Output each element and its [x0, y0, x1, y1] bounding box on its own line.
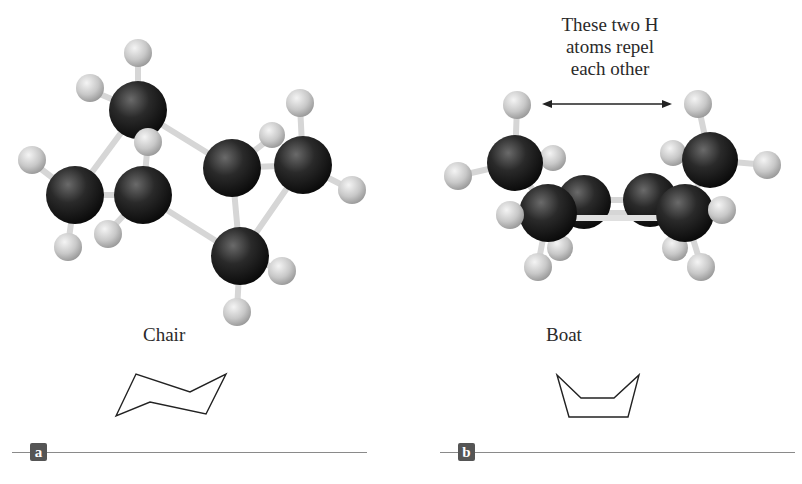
boat-caption: Boat [546, 324, 582, 346]
boat-molecule [444, 90, 781, 281]
repel-double-arrow [542, 100, 672, 108]
chair-conformation-drawing [116, 374, 226, 416]
repel-annotation: These two H atoms repel each other [535, 14, 685, 80]
annotation-line-3: each other [535, 58, 685, 80]
panel-label-a: a [30, 443, 47, 461]
boat-conformation-drawing [557, 375, 639, 417]
chair-caption: Chair [143, 324, 185, 346]
chair-molecule [18, 39, 366, 326]
panel-label-b: b [458, 443, 475, 461]
panel-b-rule [440, 452, 795, 453]
annotation-line-2: atoms repel [535, 36, 685, 58]
annotation-line-1: These two H [535, 14, 685, 36]
panel-a-rule [12, 452, 367, 453]
